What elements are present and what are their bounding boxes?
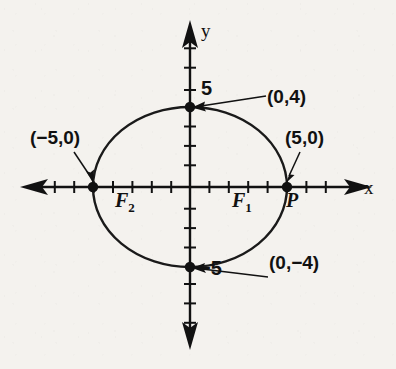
focus-2-subscript: 2 — [128, 200, 135, 215]
x-axis-label: x — [364, 178, 374, 197]
y-tick-label-5: 5 — [201, 78, 212, 98]
vertex-right-label: (5,0) — [285, 128, 324, 147]
leader-vertex-right — [286, 152, 300, 183]
focus-2-letter: F — [115, 189, 128, 211]
vertex-left-label: (−5,0) — [30, 128, 80, 147]
ellipse-figure: x y 5 −5 (0,4) (0,−4) (−5,0) (5,0) F2 F1… — [0, 0, 396, 369]
vertex-left-dot — [88, 182, 98, 192]
y-axis — [182, 20, 198, 350]
coordinate-plane-svg — [0, 0, 396, 369]
vertex-bottom-dot — [185, 262, 195, 272]
vertex-bottom-label: (0,−4) — [269, 253, 319, 272]
y-tick-label-neg5: −5 — [199, 258, 222, 278]
focus-2-label: F2 — [115, 190, 135, 214]
focus-1-label: F1 — [232, 190, 252, 214]
focus-1-letter: F — [232, 189, 245, 211]
leader-vertex-left — [74, 152, 94, 183]
y-axis-label: y — [201, 21, 211, 40]
leader-vertex-left-arrow-icon — [86, 170, 94, 184]
point-p-label: P — [286, 190, 298, 210]
x-axis — [20, 179, 372, 195]
vertex-top-label: (0,4) — [267, 87, 306, 106]
focus-1-subscript: 1 — [245, 200, 252, 215]
